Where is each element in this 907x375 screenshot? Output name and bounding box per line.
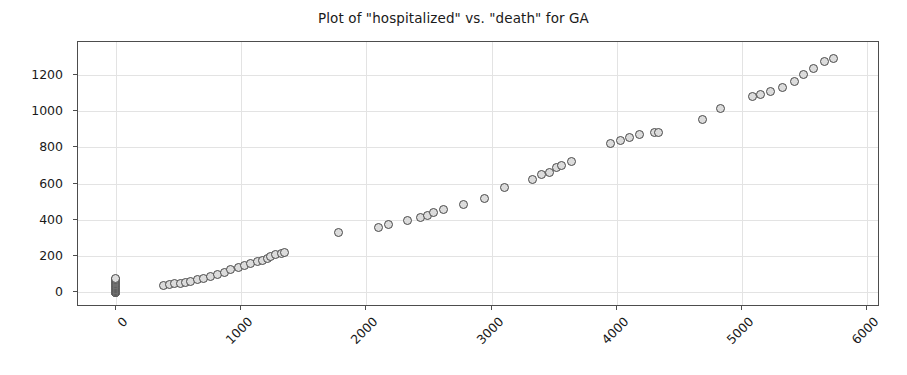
x-tick-label: 0 [35,314,130,375]
scatter-point [439,205,448,214]
x-tick-label: 6000 [787,314,882,375]
scatter-point [403,216,412,225]
scatter-point [616,136,625,145]
scatter-point [374,223,383,232]
scatter-point [280,248,289,257]
x-tick-label: 1000 [160,314,255,375]
x-tick-label: 4000 [536,314,631,375]
scatter-point [756,90,765,99]
scatter-point [778,83,787,92]
scatter-point [698,115,707,124]
scatter-point [429,208,438,217]
scatter-point [111,274,120,283]
scatter-point [748,92,757,101]
scatter-point [654,128,663,137]
scatter-point [567,157,576,166]
x-tick-mark [866,306,867,310]
scatter-point [635,130,644,139]
x-tick-label: 5000 [661,314,756,375]
plot-area [77,41,879,306]
scatter-point [716,104,725,113]
x-tick-mark [115,306,116,310]
scatter-point [528,175,537,184]
scatter-point [384,220,393,229]
scatter-point [820,57,829,66]
scatter-point [829,54,838,63]
chart-figure: Plot of "hospitalized" vs. "death" for G… [0,0,907,375]
x-tick-mark [365,306,366,310]
scatter-point [809,64,818,73]
scatter-point [790,77,799,86]
x-tick-mark [240,306,241,310]
scatter-point [334,228,343,237]
scatter-point [766,87,775,96]
scatter-points [78,42,878,305]
x-tick-mark [616,306,617,310]
x-tick-mark [491,306,492,310]
x-tick-mark [741,306,742,310]
scatter-point [606,139,615,148]
scatter-point [500,183,509,192]
scatter-point [480,194,489,203]
scatter-point [459,200,468,209]
x-tick-label: 3000 [411,314,506,375]
scatter-point [799,70,808,79]
scatter-point [625,133,634,142]
x-tick-label: 2000 [285,314,380,375]
scatter-point [557,161,566,170]
